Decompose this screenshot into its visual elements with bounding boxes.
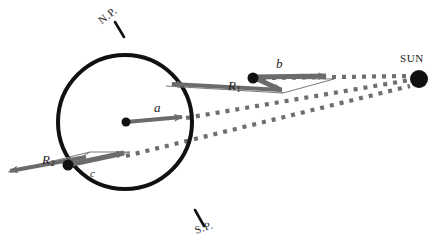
vector-r2-subscript: 2 (50, 159, 55, 168)
vector-b-arrow (255, 76, 326, 77)
vector-r1-subscript: 1 (236, 85, 241, 94)
surface-point-c-dot (63, 160, 74, 171)
vector-c-label: c (90, 167, 95, 179)
sun-label: SUN (400, 52, 424, 64)
sphere-center-dot (122, 118, 131, 127)
vector-r2-label: R2 (42, 152, 54, 168)
sun-ray-bottom-line (126, 86, 410, 156)
sun-disc (410, 70, 428, 88)
vector-r1-label: R1 (228, 78, 240, 94)
surface-point-b-dot (248, 73, 259, 84)
vector-r1-base: R (228, 78, 236, 93)
north-pole-tick (115, 22, 124, 37)
vector-a-label: a (154, 100, 161, 116)
vector-a-arrow (126, 117, 182, 122)
diagram-canvas (0, 0, 443, 246)
vector-r2-base: R (42, 152, 50, 167)
astronomy-diagram: N.P. S.P. SUN a b c R1 R2 (0, 0, 443, 246)
vector-b-label: b (276, 56, 283, 72)
